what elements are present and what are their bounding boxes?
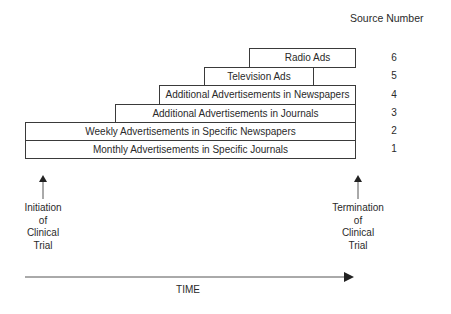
source-label: Monthly Advertisements in Specific Journ…: [93, 145, 288, 155]
marker-line: Trial: [323, 240, 393, 253]
marker-line: of: [8, 215, 78, 228]
marker-line: Initiation: [8, 202, 78, 215]
source-label: Additional Advertisements in Newspapers: [166, 90, 350, 100]
up-arrow-icon: [354, 175, 362, 199]
source-number: 2: [388, 125, 400, 136]
source-bar-television-ads: Television Ads: [204, 67, 314, 86]
source-number: 3: [388, 107, 400, 118]
source-bar-radio-ads: Radio Ads: [249, 48, 356, 68]
source-number: 6: [388, 52, 400, 63]
source-bar-weekly-newspapers: Weekly Advertisements in Specific Newspa…: [25, 122, 356, 141]
source-label: Weekly Advertisements in Specific Newspa…: [85, 127, 295, 137]
source-bar-monthly-journals: Monthly Advertisements in Specific Journ…: [25, 140, 356, 159]
source-label: Radio Ads: [275, 53, 331, 63]
time-axis-label: TIME: [168, 284, 208, 295]
marker-line: Clinical: [8, 227, 78, 240]
source-label: Additional Advertisements in Journals: [152, 109, 318, 119]
marker-line: Clinical: [323, 227, 393, 240]
source-number: 4: [388, 89, 400, 100]
marker-line: of: [323, 215, 393, 228]
marker-line: Termination: [323, 202, 393, 215]
source-bar-additional-journals: Additional Advertisements in Journals: [115, 104, 356, 123]
up-arrow-icon: [39, 175, 47, 199]
source-label: Television Ads: [227, 72, 290, 82]
right-arrow-icon: [344, 272, 354, 282]
source-number: 1: [388, 143, 400, 154]
time-axis-arrow: [20, 270, 360, 284]
initiation-marker: Initiation of Clinical Trial: [8, 175, 78, 252]
marker-line: Trial: [8, 240, 78, 253]
source-number: 5: [388, 70, 400, 81]
source-bar-additional-newspapers: Additional Advertisements in Newspapers: [159, 85, 356, 105]
termination-marker: Termination of Clinical Trial: [323, 175, 393, 252]
source-number-header: Source Number: [350, 12, 424, 24]
